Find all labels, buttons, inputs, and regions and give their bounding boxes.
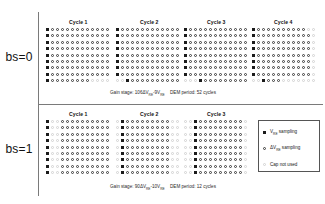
cap-cell-vre [116,47,119,50]
cap-cell-dvre [86,41,89,44]
cap-cell-dvre [91,73,94,76]
cap-cell-unused [189,171,192,174]
cap-cell-dvre [176,66,179,69]
cap-cell-dvre [166,152,169,155]
cap-cell-dvre [224,41,227,44]
cap-cell-dvre [76,146,79,149]
cap-cell-dvre [96,133,99,136]
row-label-bs0: bs=0 [2,50,36,64]
cap-cell-dvre [194,73,197,76]
cap-cell-dvre [156,146,159,149]
cap-cell-dvre [101,171,104,174]
cap-cell-dvre [307,41,310,44]
cap-cell-vre [194,139,197,142]
cap-cell-dvre [292,28,295,31]
cap-cell-dvre [146,139,149,142]
cap-cell-dvre [136,34,139,37]
cap-cell-dvre [166,54,169,57]
cap-cell-dvre [189,66,192,69]
cap-cell-dvre [297,28,300,31]
cap-cell-dvre [234,79,237,82]
cap-cell-dvre [91,171,94,174]
cap-cell-dvre [199,120,202,123]
cap-cell-dvre [234,60,237,63]
cap-cell-unused [116,126,119,129]
cap-cell-dvre [176,73,179,76]
cap-cell-dvre [282,54,285,57]
cap-cell-dvre [239,171,242,174]
cap-cell-dvre [224,54,227,57]
cap-cell-dvre [199,47,202,50]
cap-cell-vre [121,171,124,174]
cap-cell-dvre [199,34,202,37]
cap-cell-dvre [204,60,207,63]
cap-cell-unused [56,165,59,168]
cap-cell-unused [171,152,174,155]
cap-cell-dvre [262,34,265,37]
cap-cell-dvre [287,73,290,76]
cap-cell-dvre [234,66,237,69]
cap-cell-dvre [146,54,149,57]
cap-cell-dvre [121,34,124,37]
cap-cell-dvre [194,54,197,57]
cap-cell-dvre [136,146,139,149]
cap-cell-dvre [244,54,247,57]
cap-cell-dvre [166,47,169,50]
cap-cell-dvre [292,47,295,50]
legend-label-vre-sampling: VRE sampling [270,129,297,136]
cap-cell-dvre [194,41,197,44]
cap-cell-dvre [161,139,164,142]
cap-cell-dvre [199,146,202,149]
cap-cell-dvre [161,66,164,69]
cap-cell-dvre [51,54,54,57]
cap-cell-dvre [166,66,169,69]
cap-cell-dvre [204,139,207,142]
cap-cell-dvre [262,47,265,50]
cap-cell-unused [184,126,187,129]
cap-cell-dvre [66,47,69,50]
cap-cell-dvre [224,126,227,129]
cap-cell-dvre [101,66,104,69]
cap-cell-dvre [282,60,285,63]
cap-cell-dvre [219,41,222,44]
cap-cell-dvre [141,73,144,76]
cap-cell-dvre [121,60,124,63]
cap-cell-dvre [234,171,237,174]
cap-cell-dvre [141,34,144,37]
cap-cell-dvre [229,41,232,44]
cap-cell-unused [176,120,179,123]
cap-cell-dvre [56,41,59,44]
cap-cell-dvre [81,66,84,69]
cap-cell-unused [189,133,192,136]
cap-cell-dvre [66,28,69,31]
cap-cell-vre [46,133,49,136]
gain-stage-sub2-bs0: RE [160,93,164,97]
dvre-sampling-marker-icon [263,147,266,150]
cap-cell-dvre [292,41,295,44]
cap-cell-unused [176,126,179,129]
cap-cell-vre [46,47,49,50]
cap-cell-unused [312,66,315,69]
cap-cell-dvre [199,66,202,69]
cap-cell-unused [244,158,247,161]
cap-cell-dvre [61,139,64,142]
cap-cell-dvre [262,60,265,63]
cap-cell-dvre [136,165,139,168]
cap-cell-dvre [66,54,69,57]
cap-cell-dvre [244,28,247,31]
cap-cell-dvre [86,146,89,149]
cap-cell-dvre [199,171,202,174]
cap-cell-dvre [257,66,260,69]
cap-cell-dvre [86,126,89,129]
cap-cell-dvre [131,158,134,161]
cap-cell-vre [121,152,124,155]
cap-cell-dvre [204,133,207,136]
cap-cell-dvre [194,47,197,50]
cap-cell-dvre [131,34,134,37]
cap-cell-vre [262,79,265,82]
cap-cell-vre [121,126,124,129]
cap-cell-dvre [171,73,174,76]
cap-cell-unused [116,139,119,142]
cap-cell-dvre [81,79,84,82]
cap-cell-dvre [209,133,212,136]
